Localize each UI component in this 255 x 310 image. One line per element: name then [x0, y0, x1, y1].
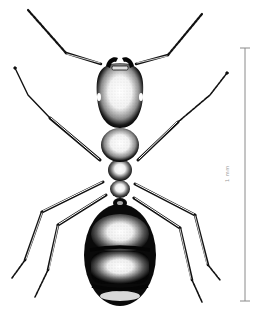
left-eye [97, 93, 101, 101]
head [97, 63, 144, 128]
scale-bar [240, 48, 250, 301]
gaster [84, 204, 156, 306]
leg-front-left [14, 67, 100, 160]
leg-front-right [138, 72, 228, 160]
ant-illustration [0, 0, 255, 310]
scale-bar-label: 1 mm [224, 165, 230, 182]
petiole [113, 198, 127, 208]
propodeum [110, 180, 130, 198]
right-antenna [136, 14, 202, 64]
left-antenna [28, 10, 101, 64]
mesonotum [108, 159, 132, 181]
pronotum [101, 128, 139, 162]
right-eye [139, 93, 143, 101]
